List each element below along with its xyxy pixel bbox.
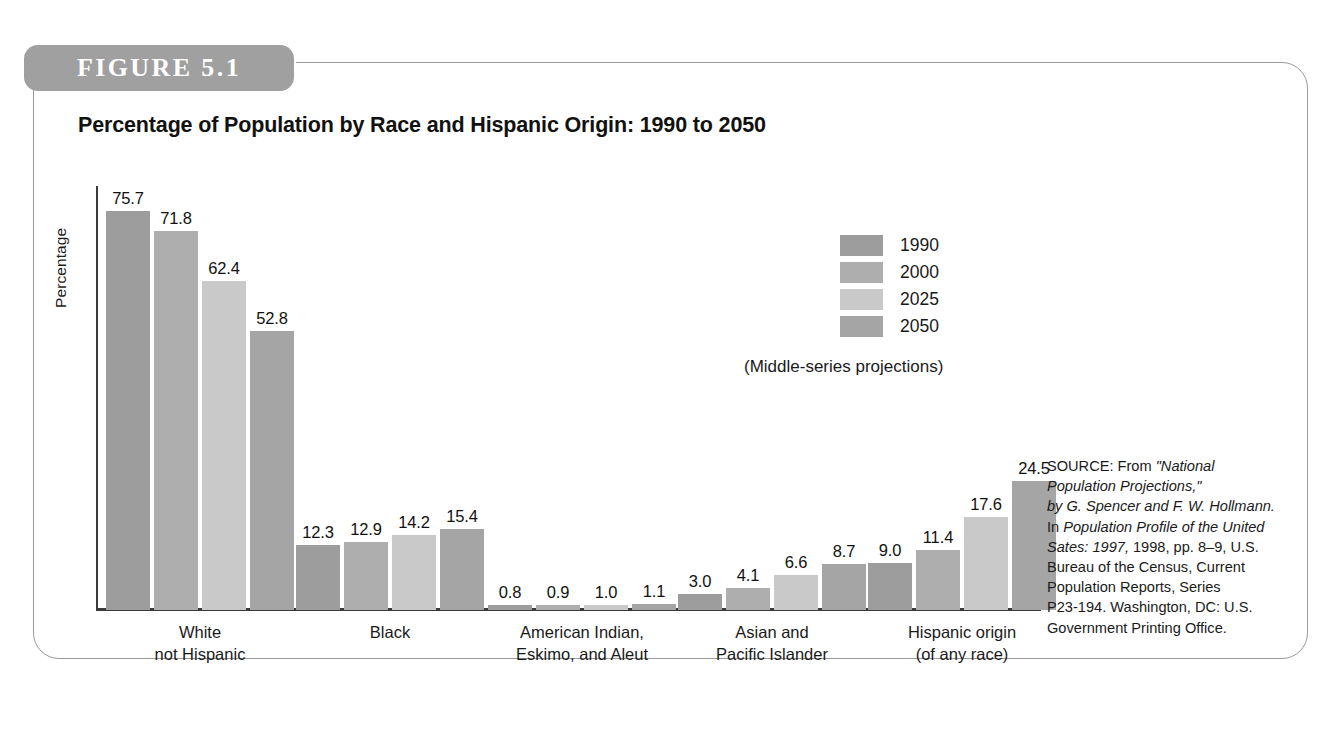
legend-label: 2025 — [900, 289, 939, 310]
legend-item: 2025 — [840, 286, 939, 312]
category-label: Black — [370, 622, 410, 644]
legend-swatch — [840, 262, 883, 283]
legend-swatch — [840, 316, 883, 337]
figure-number-badge: FIGURE 5.1 — [24, 45, 294, 91]
bar-rect — [822, 564, 866, 610]
bar-rect — [106, 211, 150, 610]
bar-group: 3.04.16.68.7 — [678, 188, 866, 610]
legend-item: 1990 — [840, 232, 939, 258]
bar-item: 4.1 — [726, 588, 770, 610]
bar-item: 11.4 — [916, 550, 960, 610]
bar-value-label: 3.0 — [689, 572, 712, 591]
bar-value-label: 75.7 — [112, 189, 144, 208]
bar-value-label: 9.0 — [879, 541, 902, 560]
legend-item: 2000 — [840, 259, 939, 285]
source-line: Sates: 1997, 1998, pp. 8–9, U.S. — [1047, 537, 1302, 557]
bar-value-label: 62.4 — [208, 259, 240, 278]
bar-rect — [584, 605, 628, 610]
bar-item: 12.3 — [296, 545, 340, 610]
bar-rect — [202, 281, 246, 610]
bar-rect — [868, 563, 912, 610]
bar-item: 12.9 — [344, 542, 388, 610]
bar-value-label: 8.7 — [833, 542, 856, 561]
bar-value-label: 71.8 — [160, 209, 192, 228]
bar-value-label: 14.2 — [398, 513, 430, 532]
bar-value-label: 15.4 — [446, 507, 478, 526]
source-line: by G. Spencer and F. W. Hollmann. — [1047, 496, 1302, 516]
bar-rect — [488, 605, 532, 610]
bar-item: 75.7 — [106, 211, 150, 610]
legend-note: (Middle-series projections) — [744, 357, 943, 377]
legend-swatch — [840, 289, 883, 310]
bar-rect — [632, 604, 676, 610]
source-line: SOURCE: From "National — [1047, 456, 1302, 476]
bar-rect — [726, 588, 770, 610]
bar-rect — [964, 517, 1008, 610]
bar-rect — [392, 535, 436, 610]
bar-item: 8.7 — [822, 564, 866, 610]
bar-item: 17.6 — [964, 517, 1008, 610]
legend-swatch — [840, 235, 883, 256]
bar-item: 15.4 — [440, 529, 484, 610]
source-line: Government Printing Office. — [1047, 618, 1302, 638]
bar-value-label: 1.1 — [643, 582, 666, 601]
bar-item: 0.9 — [536, 605, 580, 610]
figure-root: FIGURE 5.1 Percentage of Population by R… — [0, 0, 1344, 731]
chart-legend: 1990200020252050 (Middle-series projecti… — [840, 232, 939, 340]
bar-rect — [678, 594, 722, 610]
bar-item: 9.0 — [868, 563, 912, 610]
bar-item: 14.2 — [392, 535, 436, 610]
bar-value-label: 12.9 — [350, 520, 382, 539]
category-label: American Indian,Eskimo, and Aleut — [516, 622, 648, 665]
bar-value-label: 0.8 — [499, 583, 522, 602]
source-line: P23-194. Washington, DC: U.S. — [1047, 597, 1302, 617]
figure-number-label: FIGURE 5.1 — [77, 53, 241, 83]
bar-item: 52.8 — [250, 331, 294, 610]
bar-item: 1.0 — [584, 605, 628, 610]
y-axis-line — [96, 186, 98, 610]
bar-value-label: 12.3 — [302, 523, 334, 542]
legend-label: 1990 — [900, 235, 939, 256]
category-label: Whitenot Hispanic — [155, 622, 246, 665]
bar-item: 1.1 — [632, 604, 676, 610]
bar-rect — [296, 545, 340, 610]
source-line: Population Projections," — [1047, 476, 1302, 496]
bar-value-label: 17.6 — [970, 495, 1002, 514]
bar-item: 71.8 — [154, 231, 198, 610]
category-label: Hispanic origin(of any race) — [908, 622, 1016, 665]
bar-item: 62.4 — [202, 281, 246, 610]
bar-value-label: 52.8 — [256, 309, 288, 328]
bar-group: 12.312.914.215.4 — [296, 188, 484, 610]
category-label: Asian andPacific Islander — [716, 622, 828, 665]
y-axis-label: Percentage — [52, 228, 70, 308]
bar-value-label: 24.5 — [1018, 459, 1050, 478]
bar-value-label: 6.6 — [785, 553, 808, 572]
chart-title: Percentage of Population by Race and His… — [78, 113, 766, 138]
legend-label: 2050 — [900, 316, 939, 337]
source-line: Bureau of the Census, Current — [1047, 557, 1302, 577]
bar-rect — [774, 575, 818, 610]
source-line: Population Reports, Series — [1047, 577, 1302, 597]
bar-rect — [154, 231, 198, 610]
bar-rect — [250, 331, 294, 610]
bar-rect — [440, 529, 484, 610]
source-note: SOURCE: From "NationalPopulation Project… — [1047, 456, 1302, 638]
bar-value-label: 1.0 — [595, 583, 618, 602]
legend-label: 2000 — [900, 262, 939, 283]
bar-rect — [344, 542, 388, 610]
bar-value-label: 11.4 — [923, 528, 954, 547]
bar-rect — [536, 605, 580, 610]
bar-value-label: 0.9 — [547, 583, 570, 602]
bar-value-label: 4.1 — [737, 566, 760, 585]
source-line: In Population Profile of the United — [1047, 517, 1302, 537]
bar-item: 3.0 — [678, 594, 722, 610]
bar-rect — [916, 550, 960, 610]
bar-item: 0.8 — [488, 605, 532, 610]
bar-item: 6.6 — [774, 575, 818, 610]
bar-group: 0.80.91.01.1 — [488, 188, 676, 610]
bar-group: 75.771.862.452.8 — [106, 188, 294, 610]
legend-item: 2050 — [840, 313, 939, 339]
